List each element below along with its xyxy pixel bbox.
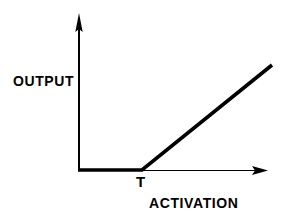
activation-function-figure: OUTPUT T ACTIVATION bbox=[0, 0, 283, 220]
threshold-linear-curve bbox=[78, 65, 272, 170]
threshold-label: T bbox=[136, 174, 145, 189]
y-axis-label: OUTPUT bbox=[13, 74, 74, 88]
x-axis-label: ACTIVATION bbox=[149, 196, 238, 210]
